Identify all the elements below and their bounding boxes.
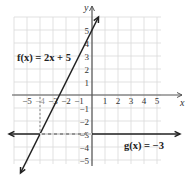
y-tick-label: −2 (79, 117, 89, 127)
x-tick-label: 2 (116, 96, 121, 106)
y-axis-label: y (83, 2, 89, 13)
y-tick-label: 5 (85, 26, 90, 36)
x-axis-label: x (179, 97, 185, 108)
y-tick-label: −1 (79, 104, 89, 114)
x-tick-label: 4 (142, 96, 147, 106)
x-tick-label: 5 (155, 96, 160, 106)
x-tick-label: 1 (103, 96, 108, 106)
function-graph: −5−3−2−112345−454321−1−2−3−4−5 y x f(x) … (0, 0, 192, 186)
x-tick-label: −2 (61, 96, 71, 106)
x-tick-label: −5 (22, 96, 32, 106)
y-tick-label: −5 (79, 156, 89, 166)
y-tick-label: −4 (79, 143, 89, 153)
g-equation-label: g(x) = −3 (124, 140, 164, 152)
y-tick-label: 3 (85, 52, 90, 62)
x-tick-label: 3 (129, 96, 134, 106)
y-tick-label: 2 (85, 65, 90, 75)
y-tick-label: 1 (85, 78, 90, 88)
f-equation-label: f(x) = 2x + 5 (17, 52, 71, 64)
